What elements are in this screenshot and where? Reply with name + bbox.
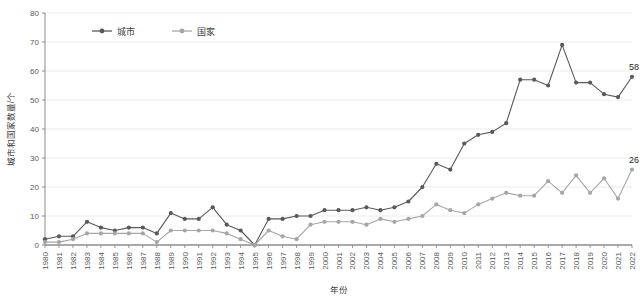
data-point [155,240,159,244]
data-point [113,231,117,235]
data-point [322,208,326,212]
data-point [560,43,564,47]
data-point [211,228,215,232]
data-point [476,133,480,137]
data-point [71,237,75,241]
data-point [504,191,508,195]
data-point [434,202,438,206]
data-point [364,223,368,227]
data-point [350,208,354,212]
legend-label-country[interactable]: 国家 [197,26,215,37]
data-point [616,197,620,201]
data-point [518,194,522,198]
data-point [378,208,382,212]
data-point [504,121,508,125]
data-point [588,81,592,85]
x-tick-label: 2006 [404,251,413,269]
y-tick-label: 0 [35,241,40,250]
data-point [85,220,89,224]
legend-label-city[interactable]: 城市 [117,26,135,37]
data-point [280,234,284,238]
data-point [57,234,61,238]
data-point [378,217,382,221]
data-point [462,211,466,215]
y-tick-label: 30 [30,154,39,163]
data-point [630,168,634,172]
x-tick-label: 1980 [41,251,50,269]
data-point [99,226,103,230]
y-tick-label: 50 [30,96,39,105]
line-chart: 01020304050607080 1980198119821983198419… [0,0,643,299]
data-point [574,81,578,85]
x-tick-label: 1981 [55,251,64,269]
data-point [127,231,131,235]
x-tick-label: 2007 [418,251,427,269]
data-point [532,194,536,198]
legend-marker-dot [100,29,105,34]
data-point [308,223,312,227]
data-point [602,92,606,96]
x-tick-label: 1990 [181,251,190,269]
x-tick-label: 1995 [251,251,260,269]
data-point [574,173,578,177]
data-point [127,226,131,230]
data-point [336,220,340,224]
x-tick-label: 1989 [167,251,176,269]
data-point [280,217,284,221]
x-tick-label: 2020 [600,251,609,269]
x-tick-label: 2002 [348,251,357,269]
data-point [406,199,410,203]
x-tick-label: 1999 [307,251,316,269]
data-point [322,220,326,224]
x-tick-label: 2022 [628,251,637,269]
x-tick-label: 1983 [83,251,92,269]
data-point [546,179,550,183]
data-point [141,231,145,235]
x-tick-label: 2021 [614,251,623,269]
data-point [490,130,494,134]
data-point [239,228,243,232]
data-point [225,231,229,235]
data-point [490,197,494,201]
data-point [225,223,229,227]
x-tick-label: 1997 [279,251,288,269]
data-point [169,211,173,215]
end-value-label: 26 [629,155,639,165]
y-tick-label: 10 [30,212,39,221]
data-point [462,141,466,145]
data-point [392,205,396,209]
data-point [420,214,424,218]
data-point [448,208,452,212]
data-point [546,83,550,87]
data-point [434,162,438,166]
data-point [294,237,298,241]
x-tick-label: 1985 [111,251,120,269]
data-point [99,231,103,235]
data-point [183,217,187,221]
x-tick-label: 2010 [460,251,469,269]
x-tick-label: 2001 [335,251,344,269]
data-point [364,205,368,209]
x-tick-label: 1992 [209,251,218,269]
x-tick-label: 2004 [376,251,385,269]
x-tick-label: 2015 [530,251,539,269]
x-tick-label: 2019 [586,251,595,269]
x-tick-label: 2012 [488,251,497,269]
data-point [141,226,145,230]
data-point [155,231,159,235]
data-point [57,240,61,244]
data-point [560,191,564,195]
x-tick-label: 2005 [390,251,399,269]
data-point [350,220,354,224]
data-point [392,220,396,224]
x-tick-label: 2011 [474,251,483,269]
data-point [602,176,606,180]
data-point [197,217,201,221]
x-tick-label: 1984 [97,251,106,269]
x-tick-label: 2003 [362,251,371,269]
y-tick-label: 70 [30,38,39,47]
data-point [239,237,243,241]
data-point [616,95,620,99]
x-tick-label: 1998 [293,251,302,269]
x-tick-label: 1993 [223,251,232,269]
